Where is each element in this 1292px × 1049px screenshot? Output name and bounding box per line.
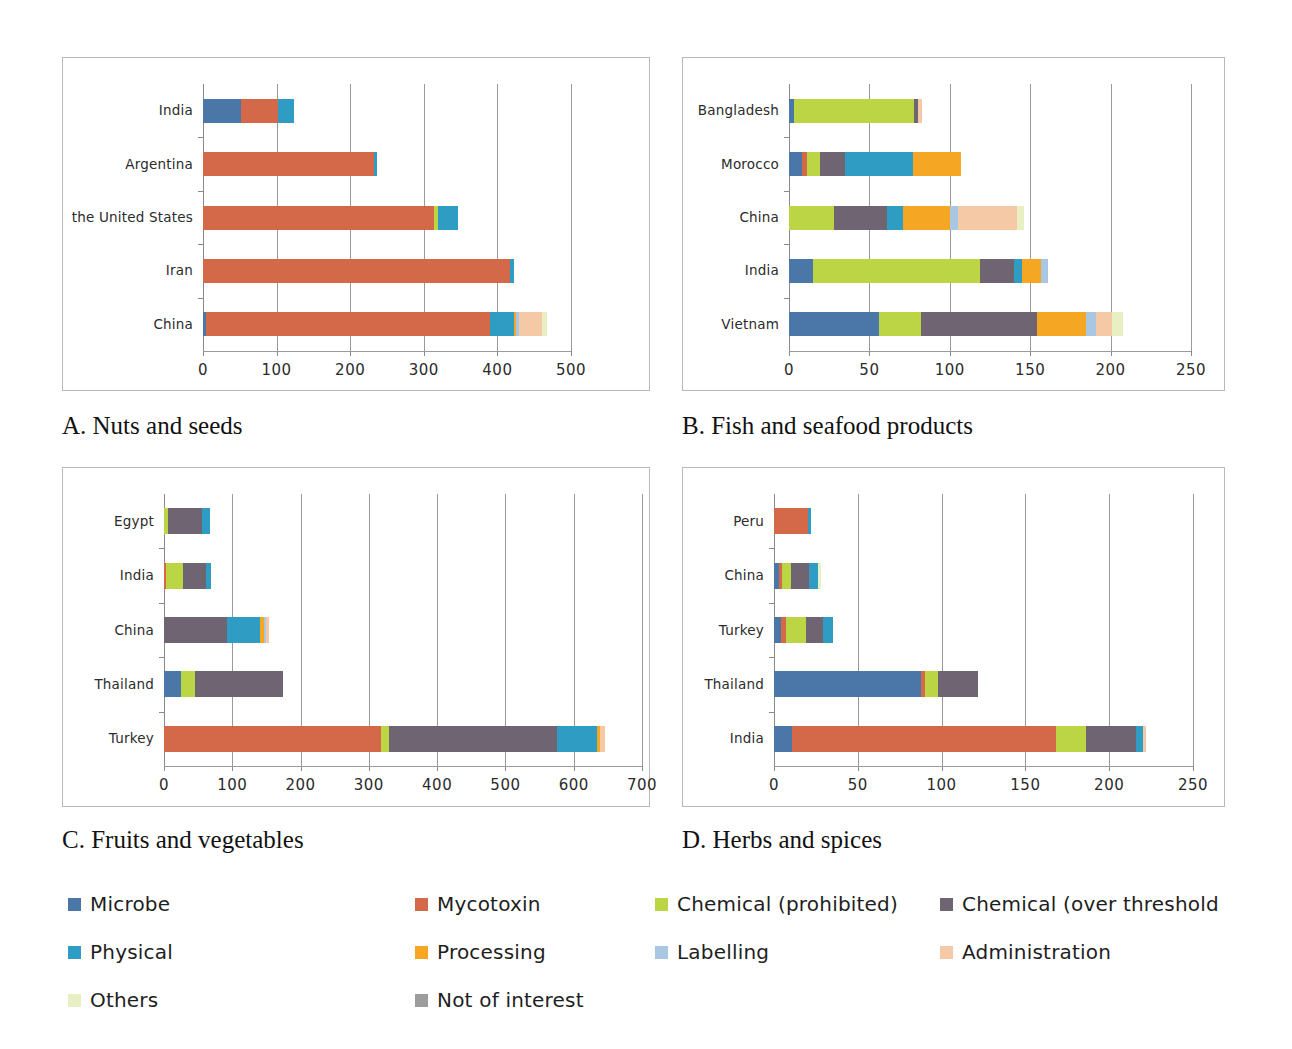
x-tick-label: 700 xyxy=(612,776,672,794)
bar-segment xyxy=(794,99,915,123)
panel-d-plot: 050100150200250IndiaThailandTurkeyChinaP… xyxy=(683,468,1224,806)
category-label: Turkey xyxy=(62,723,154,755)
legend-item[interactable]: Administration xyxy=(940,940,1111,964)
x-tick-label: 300 xyxy=(339,776,399,794)
stacked-bar xyxy=(203,152,377,176)
bar-segment xyxy=(789,152,802,176)
gridline-700 xyxy=(642,494,643,766)
category-label: India xyxy=(682,723,764,755)
bar-segment xyxy=(164,671,181,697)
bar-segment xyxy=(168,508,202,534)
x-tick-label: 100 xyxy=(920,361,980,379)
legend-item[interactable]: Not of interest xyxy=(415,988,584,1012)
bar-segment xyxy=(600,726,605,752)
category-label: Vietnam xyxy=(683,308,779,340)
legend-swatch-icon xyxy=(68,994,81,1007)
legend-item[interactable]: Processing xyxy=(415,940,546,964)
bar-segment xyxy=(1017,206,1023,230)
panel-b-plot: 050100150200250VietnamIndiaChinaMoroccoB… xyxy=(683,58,1224,390)
stacked-bar xyxy=(789,152,961,176)
bar-segment xyxy=(950,206,958,230)
bar-segment xyxy=(1096,312,1112,336)
panel-c-plot: 0100200300400500600700TurkeyThailandChin… xyxy=(63,468,649,806)
bar-segment xyxy=(807,152,820,176)
y-tickmark xyxy=(159,548,164,549)
panel-a: 0100200300400500ChinaIranthe United Stat… xyxy=(62,57,650,391)
legend-item[interactable]: Chemical (prohibited) xyxy=(655,892,898,916)
legend-label: Chemical (over threshold xyxy=(962,892,1219,916)
legend-item[interactable]: Labelling xyxy=(655,940,769,964)
bar-segment xyxy=(887,206,903,230)
legend-swatch-icon xyxy=(415,898,428,911)
legend-item[interactable]: Mycotoxin xyxy=(415,892,541,916)
bar-segment xyxy=(1037,312,1087,336)
x-tick-label: 100 xyxy=(247,361,307,379)
legend-label: Others xyxy=(90,988,158,1012)
bar-segment xyxy=(1022,259,1041,283)
bar-segment xyxy=(519,312,543,336)
bar-segment xyxy=(823,617,833,643)
bar-segment xyxy=(774,508,808,534)
y-tickmark xyxy=(769,712,774,713)
bar-segment xyxy=(1086,312,1096,336)
legend-item[interactable]: Physical xyxy=(68,940,173,964)
x-tick-label: 150 xyxy=(1000,361,1060,379)
y-tickmark xyxy=(198,244,203,245)
bar-segment xyxy=(921,312,1037,336)
legend: MicrobeMycotoxinChemical (prohibited)Che… xyxy=(60,892,1260,1027)
gridline-250 xyxy=(1191,84,1192,351)
stacked-bar xyxy=(164,671,284,697)
stacked-bar xyxy=(789,259,1048,283)
x-tick-label: 500 xyxy=(541,361,601,379)
legend-label: Administration xyxy=(962,940,1111,964)
stacked-bar xyxy=(203,312,547,336)
bar-segment xyxy=(241,99,278,123)
bar-segment xyxy=(1086,726,1136,752)
y-tickmark xyxy=(159,657,164,658)
category-label: Thailand xyxy=(62,668,154,700)
x-tick-label: 200 xyxy=(320,361,380,379)
bar-segment xyxy=(510,259,514,283)
y-tickmark xyxy=(769,657,774,658)
x-tick-label: 200 xyxy=(1079,776,1139,794)
bar-segment xyxy=(818,563,821,589)
legend-swatch-icon xyxy=(68,898,81,911)
category-label: China xyxy=(683,202,779,234)
x-tick-label: 600 xyxy=(544,776,604,794)
y-tickmark xyxy=(784,191,789,192)
stacked-bar xyxy=(203,259,514,283)
legend-item[interactable]: Others xyxy=(68,988,158,1012)
legend-swatch-icon xyxy=(940,898,953,911)
y-tickmark xyxy=(784,298,789,299)
x-tick-label: 400 xyxy=(467,361,527,379)
legend-item[interactable]: Microbe xyxy=(68,892,170,916)
stacked-bar xyxy=(164,563,211,589)
y-tickmark xyxy=(159,712,164,713)
y-tickmark xyxy=(769,548,774,549)
legend-label: Not of interest xyxy=(437,988,584,1012)
bar-segment xyxy=(203,152,374,176)
stacked-bar xyxy=(774,726,1146,752)
stacked-bar xyxy=(203,206,458,230)
bar-segment xyxy=(266,617,269,643)
legend-label: Labelling xyxy=(677,940,769,964)
stacked-bar xyxy=(789,312,1123,336)
bar-segment xyxy=(809,563,817,589)
legend-label: Processing xyxy=(437,940,546,964)
bar-segment xyxy=(374,152,378,176)
stacked-bar xyxy=(164,508,210,534)
x-tick-label: 0 xyxy=(173,361,233,379)
legend-label: Chemical (prohibited) xyxy=(677,892,898,916)
x-axis-line xyxy=(789,351,1191,352)
stacked-bar xyxy=(774,508,811,534)
gridline-400 xyxy=(497,84,498,351)
bar-segment xyxy=(789,312,879,336)
x-tick-label: 300 xyxy=(394,361,454,379)
caption-panel-d: D. Herbs and spices xyxy=(682,826,882,854)
bar-segment xyxy=(1014,259,1022,283)
stacked-bar xyxy=(774,671,978,697)
legend-item[interactable]: Chemical (over threshold xyxy=(940,892,1219,916)
x-tick-label: 200 xyxy=(271,776,331,794)
bar-segment xyxy=(203,206,434,230)
stacked-bar xyxy=(774,563,821,589)
